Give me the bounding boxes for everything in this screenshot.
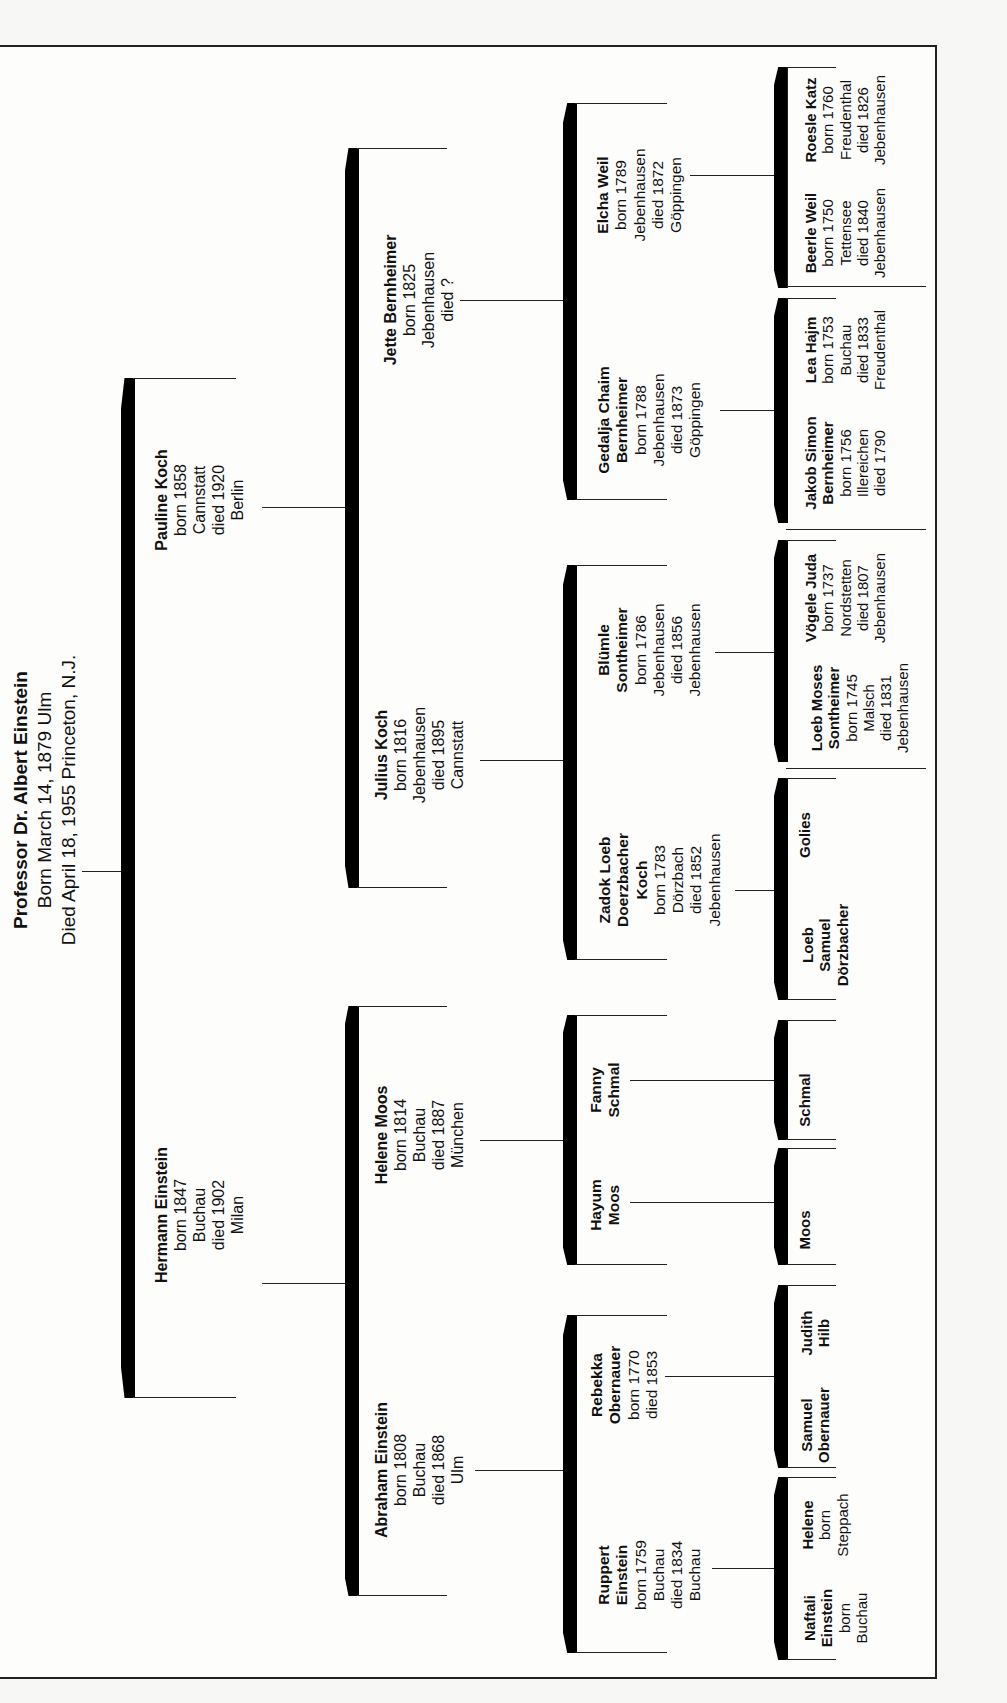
person-golies: Golies (790, 790, 820, 880)
person-name: Loeb (799, 904, 816, 987)
person-name: Ruppert (595, 1540, 613, 1610)
person-voegele-juda: Vögele Juda born 1737 Nordstetten died 1… (790, 545, 900, 650)
person-name: Helene Moos (373, 1086, 392, 1185)
person-lea-hajm: Lea Hajm born 1753 Buchau died 1833 Freu… (790, 300, 900, 400)
bracket-cap-top (786, 1477, 836, 1478)
person-loeb-moses-sontheimer: Loeb Moses Sontheimer born 1745 Malsch d… (790, 655, 930, 760)
bracket-cap-top (786, 1285, 836, 1286)
connector-jette (460, 300, 564, 301)
person-name: Zadok Loeb (596, 833, 614, 927)
connector-zadok (735, 890, 775, 891)
root-person-albert-einstein: Professor Dr. Albert Einstein Born March… (0, 560, 90, 1040)
bracket-bar-sontheimer-juda (774, 540, 788, 762)
bracket-cap-top (786, 1148, 836, 1149)
connector-julius (480, 760, 564, 761)
person-helene-steppach: Helene born Steppach (790, 1482, 860, 1567)
person-julius-koch: Julius Koch born 1816 Jebenhausen died 1… (365, 680, 475, 830)
person-hermann-einstein: Hermann Einstein born 1847 Buchau died 1… (140, 1120, 260, 1310)
bracket-bar-einstein-obernauer (563, 1315, 577, 1653)
connector-root (82, 871, 122, 872)
person-roesle-katz: Roesle Katz born 1760 Freudenthal died 1… (790, 70, 900, 170)
bracket-bar-moos-schmal (563, 1015, 577, 1265)
frame-border-right (935, 45, 937, 1677)
bracket-bar-weil-katz (774, 67, 788, 288)
bracket-cap-bottom (357, 1595, 447, 1596)
bracket-cap-top (786, 1020, 836, 1021)
bracket-bar-moos (774, 1148, 788, 1265)
person-name: Beerle Weil (802, 187, 819, 277)
person-name: Blümle (595, 603, 613, 696)
person-rebekka-obernauer: Rebekka Obernauer born 1770 died 1853 (580, 1325, 670, 1445)
bracket-bar-paternal-grandparents (345, 1006, 359, 1596)
person-helene-moos: Helene Moos born 1814 Buchau died 1887 M… (365, 1060, 475, 1210)
bracket-bar-doerzbacher-golies (774, 778, 788, 1000)
bracket-bar-schmal (774, 1020, 788, 1140)
bracket-bar-koch-sontheimer (563, 565, 577, 960)
bracket-bar-einstein-helene (774, 1477, 788, 1660)
person-name: Vögele Juda (802, 552, 819, 642)
person-name: Lea Hajm (802, 310, 819, 390)
person-name: Pauline Koch (153, 449, 172, 550)
person-gedalja-chaim-bernheimer: Gedalja Chaim Bernheimer born 1788 Jeben… (580, 345, 720, 495)
bracket-cap-top (786, 298, 836, 299)
person-abraham-einstein: Abraham Einstein born 1808 Buchau died 1… (365, 1380, 475, 1560)
person-name: Helene (799, 1493, 816, 1556)
bracket-cap-top (575, 1015, 667, 1016)
bracket-cap-top-parents (133, 378, 236, 379)
person-name: Judith (798, 1310, 815, 1355)
person-name: Naftali (801, 1588, 818, 1646)
person-name: Golies (796, 812, 813, 858)
person-judith-hilb: Judith Hilb (790, 1290, 840, 1375)
person-fanny-schmal: Fanny Schmal (580, 1040, 630, 1140)
bracket-cap-bottom (575, 959, 667, 960)
person-name: Loeb Moses (808, 662, 825, 752)
connector-fanny-schmal (630, 1080, 775, 1081)
birth-info: Born March 14, 1879 Ulm (33, 655, 57, 945)
connector-helene-moos (480, 1140, 564, 1141)
person-name: Gedalja Chaim (595, 366, 613, 474)
death-info: Died April 18, 1955 Princeton, N.J. (57, 655, 81, 945)
connector-ruppert (712, 1568, 775, 1569)
connector-pauline (262, 507, 346, 508)
bracket-bar-bernheimer-weil (563, 103, 577, 500)
box-divider (787, 67, 788, 288)
person-name: Julius Koch (373, 707, 392, 803)
frame-border-bottom (0, 1677, 937, 1679)
bracket-cap-top (786, 778, 836, 779)
bracket-cap-top (786, 67, 836, 68)
box-divider (786, 286, 926, 287)
person-name: Jakob Simon (802, 416, 819, 509)
person-name: Abraham Einstein (373, 1402, 392, 1538)
bracket-bar-bernheimer-hajm (774, 298, 788, 523)
person-name: Moos (796, 1210, 813, 1249)
bracket-cap-top (357, 148, 447, 149)
bracket-cap-bottom-parents (133, 1397, 236, 1398)
box-divider (786, 529, 926, 530)
person-name: Roesle Katz (802, 75, 819, 165)
bracket-bar-maternal-grandparents (345, 148, 359, 888)
person-schmal: Schmal (790, 1060, 820, 1140)
person-naftali-einstein: Naftali Einstein born Buchau (790, 1575, 880, 1660)
connector-rebekka (665, 1376, 775, 1377)
person-moos: Moos (790, 1195, 820, 1265)
connector-elcha-weil (690, 175, 774, 176)
person-name: Hayum (587, 1179, 605, 1231)
bracket-cap-bottom (575, 499, 667, 500)
connector-hermann (262, 1283, 346, 1284)
person-name: Professor Dr. Albert Einstein (9, 655, 33, 945)
bracket-cap-top (357, 1006, 447, 1007)
person-name: Rebekka (588, 1346, 606, 1424)
connector-abraham (475, 1470, 564, 1471)
person-beerle-weil: Beerle Weil born 1750 Tettensee died 184… (790, 180, 900, 285)
person-name: Samuel (798, 1387, 815, 1463)
person-ruppert-einstein: Ruppert Einstein born 1759 Buchau died 1… (580, 1515, 720, 1635)
bracket-bar-parents (121, 378, 135, 1398)
bracket-cap-bottom (575, 1264, 667, 1265)
person-name: Jette Bernheimer (382, 235, 401, 366)
person-zadok-loeb-doerzbacher-koch: Zadok Loeb Doerzbacher Koch born 1783 Dö… (580, 805, 740, 955)
person-pauline-koch: Pauline Koch born 1858 Cannstatt died 19… (140, 420, 260, 580)
person-elcha-weil: Elcha Weil born 1789 Jebenhausen died 18… (580, 110, 700, 280)
person-name: Elcha Weil (594, 148, 612, 241)
person-jakob-simon-bernheimer: Jakob Simon Bernheimer born 1756 Illerei… (790, 408, 900, 518)
person-samuel-obernauer: Samuel Obernauer (790, 1380, 840, 1470)
